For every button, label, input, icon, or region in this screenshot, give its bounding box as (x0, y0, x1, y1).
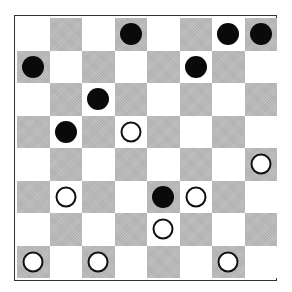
board-square[interactable] (147, 18, 180, 51)
board-square[interactable] (147, 148, 180, 181)
board-square[interactable] (115, 83, 148, 116)
board-square[interactable] (17, 51, 50, 84)
white-checker-piece[interactable] (120, 121, 141, 142)
board-square[interactable] (50, 181, 83, 214)
board-square[interactable] (245, 148, 278, 181)
board-square[interactable] (115, 213, 148, 246)
board-square[interactable] (245, 181, 278, 214)
board-square[interactable] (115, 246, 148, 279)
board-square[interactable] (115, 116, 148, 149)
board-square[interactable] (245, 51, 278, 84)
board-square[interactable] (212, 18, 245, 51)
board-square[interactable] (50, 51, 83, 84)
white-checker-piece[interactable] (250, 154, 271, 175)
black-checker-piece[interactable] (87, 88, 109, 110)
board-square[interactable] (115, 181, 148, 214)
board-square[interactable] (82, 18, 115, 51)
white-checker-piece[interactable] (88, 251, 109, 272)
board-square[interactable] (180, 213, 213, 246)
black-checker-piece[interactable] (55, 121, 77, 143)
black-checker-piece[interactable] (22, 56, 44, 78)
board-square[interactable] (82, 83, 115, 116)
white-checker-piece[interactable] (55, 186, 76, 207)
board-square[interactable] (50, 246, 83, 279)
board-grid (17, 18, 277, 278)
board-square[interactable] (180, 181, 213, 214)
board-square[interactable] (180, 246, 213, 279)
board-square[interactable] (50, 116, 83, 149)
black-checker-piece[interactable] (120, 23, 142, 45)
board-square[interactable] (245, 18, 278, 51)
white-checker-piece[interactable] (153, 219, 174, 240)
board-square[interactable] (212, 148, 245, 181)
board-square[interactable] (180, 18, 213, 51)
board-square[interactable] (115, 148, 148, 181)
board-square[interactable] (17, 116, 50, 149)
white-checker-piece[interactable] (218, 251, 239, 272)
checkers-board (14, 15, 277, 281)
board-square[interactable] (180, 51, 213, 84)
board-square[interactable] (245, 116, 278, 149)
board-square[interactable] (17, 83, 50, 116)
board-square[interactable] (212, 246, 245, 279)
black-checker-piece[interactable] (185, 56, 207, 78)
board-square[interactable] (115, 18, 148, 51)
board-square[interactable] (82, 148, 115, 181)
board-square[interactable] (82, 51, 115, 84)
board-square[interactable] (17, 18, 50, 51)
board-square[interactable] (212, 51, 245, 84)
board-square[interactable] (212, 181, 245, 214)
board-square[interactable] (82, 116, 115, 149)
board-square[interactable] (147, 181, 180, 214)
board-square[interactable] (50, 83, 83, 116)
black-checker-piece[interactable] (217, 23, 239, 45)
board-square[interactable] (82, 213, 115, 246)
black-checker-piece[interactable] (152, 186, 174, 208)
board-square[interactable] (245, 246, 278, 279)
board-square[interactable] (82, 181, 115, 214)
board-square[interactable] (147, 246, 180, 279)
board-square[interactable] (50, 148, 83, 181)
board-square[interactable] (147, 51, 180, 84)
black-checker-piece[interactable] (250, 23, 272, 45)
white-checker-piece[interactable] (23, 251, 44, 272)
board-square[interactable] (17, 148, 50, 181)
board-square[interactable] (147, 116, 180, 149)
board-square[interactable] (82, 246, 115, 279)
board-square[interactable] (180, 83, 213, 116)
white-checker-piece[interactable] (185, 186, 206, 207)
board-square[interactable] (245, 83, 278, 116)
board-square[interactable] (180, 148, 213, 181)
board-square[interactable] (147, 83, 180, 116)
board-square[interactable] (212, 83, 245, 116)
board-square[interactable] (17, 246, 50, 279)
board-square[interactable] (50, 18, 83, 51)
board-square[interactable] (212, 213, 245, 246)
board-square[interactable] (212, 116, 245, 149)
board-square[interactable] (17, 213, 50, 246)
board-square[interactable] (180, 116, 213, 149)
board-square[interactable] (50, 213, 83, 246)
board-square[interactable] (115, 51, 148, 84)
board-square[interactable] (17, 181, 50, 214)
board-square[interactable] (147, 213, 180, 246)
board-square[interactable] (245, 213, 278, 246)
